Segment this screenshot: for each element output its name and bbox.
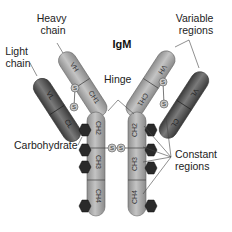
light-chain-label: Light chain	[5, 45, 31, 69]
ch4-label: CH4	[95, 189, 102, 203]
central-disulfide-bond: S S	[105, 144, 128, 152]
left-disulfide-bond: S S	[70, 84, 79, 111]
hexagon-icon	[145, 200, 157, 212]
ch2-label-right: CH2	[131, 123, 138, 137]
svg-text:S: S	[119, 145, 123, 151]
svg-text:S: S	[110, 145, 114, 151]
svg-text:S: S	[73, 85, 77, 91]
hinge-label: Hinge	[104, 73, 132, 85]
right-heavy-stem: CH2 CH3 CH4	[128, 112, 146, 216]
ch2-label: CH2	[95, 121, 102, 135]
carbohydrate-label: Carbohydrate	[14, 139, 78, 151]
right-disulfide-bond: S S	[159, 78, 168, 108]
svg-text:S: S	[161, 79, 165, 85]
svg-text:S: S	[72, 104, 76, 110]
svg-text:S: S	[162, 101, 166, 107]
variable-regions-label: Variable regions	[176, 12, 217, 36]
igm-antibody-diagram: VL CL VL CL VH CH1 VH CH1 CH2 CH3 CH4 CH…	[0, 0, 232, 232]
heavy-chain-label: Heavy chain	[37, 12, 70, 36]
hexagon-icon	[145, 162, 157, 174]
carbohydrate-right	[145, 124, 157, 212]
diagram-title: IgM	[113, 38, 132, 50]
constant-regions-label: Constant regions	[175, 148, 220, 172]
ch4-label-right: CH4	[131, 190, 138, 204]
ch3-label-right: CH3	[131, 157, 138, 171]
ch3-label: CH3	[95, 155, 102, 169]
